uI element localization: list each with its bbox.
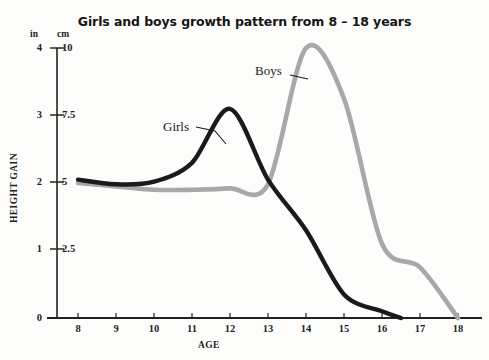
chart-figure: Girls and boys growth pattern from 8 – 1… [0, 0, 489, 360]
series-line-girls [78, 109, 401, 318]
plot-area [0, 0, 489, 360]
